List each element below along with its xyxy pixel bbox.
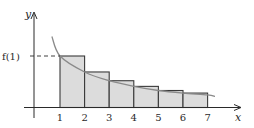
bar-3 (109, 81, 134, 108)
x-tick-label-3: 3 (106, 112, 112, 123)
x-axis-label: x (235, 111, 242, 124)
x-tick-label-1: 1 (57, 112, 63, 123)
bar-1 (60, 56, 85, 108)
x-tick-label-2: 2 (81, 112, 87, 123)
x-tick-label-5: 5 (155, 112, 161, 123)
bar-6 (183, 93, 208, 107)
x-tick-label-4: 4 (131, 112, 137, 123)
x-tick-label-6: 6 (180, 112, 186, 123)
x-tick-label-7: 7 (204, 112, 210, 123)
f1-label: f(1) (2, 51, 20, 62)
riemann-sum-chart: y x f(1) 1234567 (0, 0, 254, 128)
y-axis-label: y (24, 8, 32, 21)
x-tick-labels: 1234567 (57, 112, 211, 123)
bars (60, 56, 208, 108)
